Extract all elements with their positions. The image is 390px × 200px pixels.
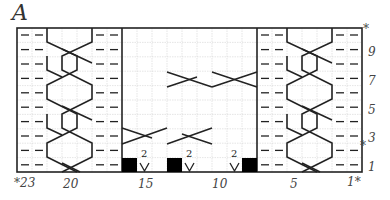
column-label-23: *23 <box>14 176 35 190</box>
row-label-7: 7 <box>368 74 376 88</box>
column-label-15: 15 <box>138 177 153 191</box>
center-cable-symbols <box>122 72 257 144</box>
column-label-20: 20 <box>63 177 78 191</box>
column-label-5: 5 <box>290 177 298 191</box>
column-label-1: 1* <box>347 175 361 189</box>
increase-count-2: 2 <box>186 148 192 159</box>
increase-symbols <box>140 163 239 171</box>
repeat-marker-row3: * <box>360 139 366 153</box>
row-label-3: 3 <box>368 131 376 145</box>
column-label-10: 10 <box>212 177 227 191</box>
knitting-chart <box>0 0 390 200</box>
row-label-1: 1 <box>368 160 376 174</box>
increase-count-3: 2 <box>231 148 237 159</box>
repeat-marker-top: * <box>363 22 369 36</box>
row-label-9: 9 <box>368 45 376 59</box>
row-label-5: 5 <box>368 103 376 117</box>
increase-count-1: 2 <box>141 148 147 159</box>
